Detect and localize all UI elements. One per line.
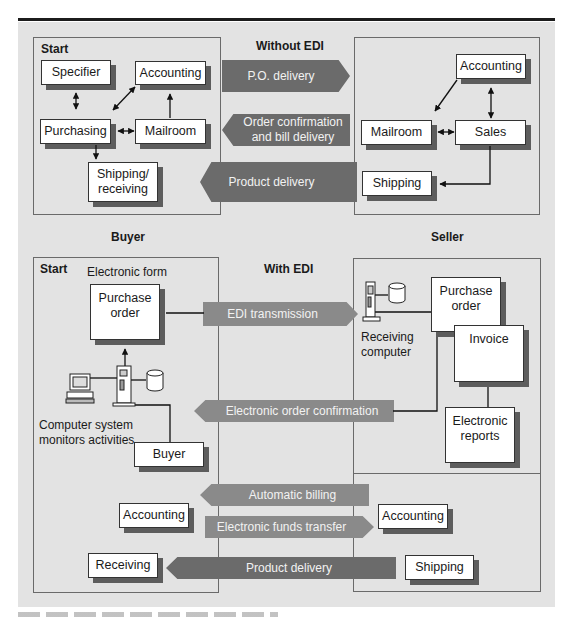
receiving-computer-caption: Receiving computer: [361, 330, 421, 360]
node-invoice: Invoice: [454, 325, 524, 382]
arrow-product-delivery-bottom: Product delivery: [166, 557, 396, 579]
arrow-automatic-billing: Automatic billing: [200, 484, 369, 506]
arrow-electronic-funds-transfer: Electronic funds transfer: [205, 516, 374, 538]
node-sales: Sales: [455, 120, 526, 145]
node-purchasing: Purchasing: [40, 119, 111, 144]
arrow-product-delivery-top: Product delivery: [200, 162, 357, 202]
node-accounting-seller-edi: Accounting: [378, 504, 448, 529]
arrow-edi-transmission: EDI transmission: [203, 302, 358, 326]
arrow-po-delivery: P.O. delivery: [222, 60, 350, 92]
figure-caption-cropped: [18, 612, 278, 617]
top-rule: [18, 18, 555, 21]
node-shipping-seller-edi: Shipping: [405, 555, 474, 580]
node-shipping-receiving: Shipping/ receiving: [88, 162, 158, 202]
without-edi-title: Without EDI: [256, 39, 324, 54]
with-edi-start-label: Start: [40, 262, 67, 277]
node-accounting-seller: Accounting: [456, 54, 526, 79]
node-purchase-order-seller: Purchase order: [431, 277, 501, 332]
node-mailroom-seller: Mailroom: [361, 120, 432, 145]
arrow-electronic-order-confirmation: Electronic order confirmation: [194, 400, 394, 422]
electronic-form-label: Electronic form: [87, 265, 167, 280]
without-edi-start-label: Start: [41, 42, 68, 57]
node-specifier: Specifier: [41, 60, 111, 85]
node-accounting-buyer: Accounting: [135, 61, 206, 85]
node-shipping-seller: Shipping: [362, 171, 432, 196]
with-edi-title: With EDI: [264, 262, 313, 277]
seller-divider: [353, 473, 541, 474]
seller-label: Seller: [431, 230, 464, 245]
node-mailroom-buyer: Mailroom: [135, 119, 206, 144]
node-buyer: Buyer: [134, 442, 204, 467]
buyer-label: Buyer: [111, 230, 145, 245]
node-purchase-order-buyer: Purchase order: [90, 284, 160, 340]
arrow-order-confirmation: Order confirmation and bill delivery: [222, 114, 350, 146]
computer-system-caption: Computer system monitors activities: [39, 418, 139, 448]
node-receiving: Receiving: [88, 553, 158, 578]
node-electronic-reports: Electronic reports: [445, 407, 515, 463]
node-accounting-buyer-edi: Accounting: [119, 503, 189, 528]
